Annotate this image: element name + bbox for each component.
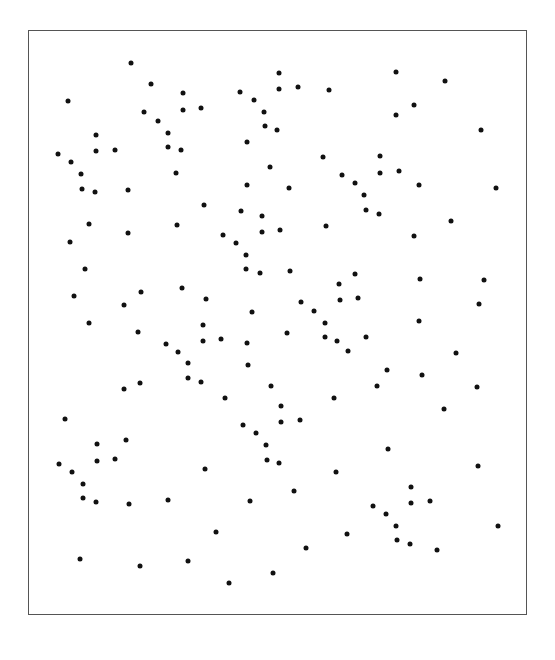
scatter-point <box>477 302 482 307</box>
scatter-point <box>324 224 329 229</box>
scatter-point <box>83 267 88 272</box>
scatter-point <box>364 208 369 213</box>
scatter-point <box>181 108 186 113</box>
scatter-point <box>245 341 250 346</box>
scatter-point <box>277 461 282 466</box>
scatter-point <box>265 458 270 463</box>
scatter-point <box>271 571 276 576</box>
scatter-point <box>214 530 219 535</box>
scatter-point <box>139 290 144 295</box>
scatter-point <box>136 330 141 335</box>
scatter-point <box>122 387 127 392</box>
scatter-point <box>164 342 169 347</box>
scatter-point <box>285 331 290 336</box>
scatter-point <box>337 282 342 287</box>
scatter-point <box>227 581 232 586</box>
scatter-point <box>338 298 343 303</box>
scatter-point <box>268 165 273 170</box>
scatter-point <box>149 82 154 87</box>
scatter-point <box>78 557 83 562</box>
scatter-point <box>113 148 118 153</box>
scatter-point <box>68 240 73 245</box>
scatter-point <box>199 380 204 385</box>
scatter-point <box>201 339 206 344</box>
scatter-point <box>287 186 292 191</box>
scatter-point <box>269 384 274 389</box>
scatter-point <box>204 297 209 302</box>
scatter-point <box>412 234 417 239</box>
scatter-point <box>346 349 351 354</box>
scatter-point <box>234 241 239 246</box>
scatter-point <box>323 335 328 340</box>
scatter-point <box>321 155 326 160</box>
scatter-point <box>80 187 85 192</box>
scatter-point <box>263 124 268 129</box>
scatter-point <box>277 87 282 92</box>
scatter-point <box>378 171 383 176</box>
scatter-point <box>138 564 143 569</box>
scatter-point <box>94 500 99 505</box>
scatter-point <box>420 373 425 378</box>
scatter-point <box>186 361 191 366</box>
scatter-point <box>353 181 358 186</box>
scatter-point <box>127 502 132 507</box>
scatter-point <box>252 98 257 103</box>
scatter-point <box>417 319 422 324</box>
scatter-point <box>254 431 259 436</box>
scatter-point <box>428 499 433 504</box>
scatter-point <box>244 253 249 258</box>
scatter-point <box>245 140 250 145</box>
scatter-point <box>57 462 62 467</box>
scatter-point <box>260 214 265 219</box>
scatter-point <box>179 148 184 153</box>
scatter-point <box>66 99 71 104</box>
scatter-point <box>122 303 127 308</box>
scatter-point <box>442 407 447 412</box>
scatter-point <box>278 228 283 233</box>
scatter-point <box>70 470 75 475</box>
scatter-point <box>335 339 340 344</box>
scatter-point <box>375 384 380 389</box>
scatter-points-layer <box>0 0 555 660</box>
scatter-point <box>199 106 204 111</box>
scatter-point <box>279 404 284 409</box>
scatter-point <box>69 160 74 165</box>
scatter-point <box>479 128 484 133</box>
scatter-point <box>482 278 487 283</box>
scatter-point <box>63 417 68 422</box>
scatter-point <box>449 219 454 224</box>
scatter-point <box>409 501 414 506</box>
scatter-point <box>298 418 303 423</box>
scatter-point <box>362 193 367 198</box>
scatter-point <box>113 457 118 462</box>
scatter-point <box>124 438 129 443</box>
scatter-point <box>93 190 98 195</box>
scatter-point <box>94 133 99 138</box>
scatter-point <box>386 447 391 452</box>
scatter-point <box>239 209 244 214</box>
scatter-point <box>202 203 207 208</box>
scatter-point <box>94 149 99 154</box>
scatter-point <box>394 113 399 118</box>
scatter-point <box>384 512 389 517</box>
scatter-point <box>435 548 440 553</box>
scatter-point <box>72 294 77 299</box>
scatter-point <box>494 186 499 191</box>
scatter-point <box>385 368 390 373</box>
scatter-point <box>166 145 171 150</box>
scatter-point <box>279 420 284 425</box>
scatter-point <box>312 309 317 314</box>
scatter-point <box>87 222 92 227</box>
scatter-point <box>174 171 179 176</box>
scatter-point <box>126 231 131 236</box>
scatter-point <box>394 524 399 529</box>
scatter-point <box>95 459 100 464</box>
scatter-point <box>180 286 185 291</box>
scatter-point <box>238 90 243 95</box>
scatter-point <box>203 467 208 472</box>
scatter-point <box>245 183 250 188</box>
scatter-point <box>345 532 350 537</box>
scatter-point <box>186 559 191 564</box>
scatter-point <box>332 396 337 401</box>
scatter-point <box>87 321 92 326</box>
